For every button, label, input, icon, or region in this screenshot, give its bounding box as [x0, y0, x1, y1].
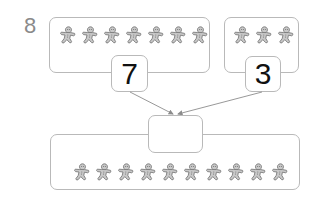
answer-box[interactable] — [148, 115, 203, 153]
gingerbread-icon — [270, 162, 290, 182]
gingerbread-icon — [160, 162, 180, 182]
right-arrow — [178, 92, 262, 114]
left-arrow — [130, 92, 173, 114]
gingerbread-icon — [94, 162, 114, 182]
gingerbread-icon — [248, 162, 268, 182]
gingerbread-icon — [182, 162, 202, 182]
total-group-cookies — [72, 162, 290, 182]
gingerbread-icon — [226, 162, 246, 182]
gingerbread-icon — [116, 162, 136, 182]
gingerbread-icon — [204, 162, 224, 182]
gingerbread-icon — [72, 162, 92, 182]
gingerbread-icon — [138, 162, 158, 182]
